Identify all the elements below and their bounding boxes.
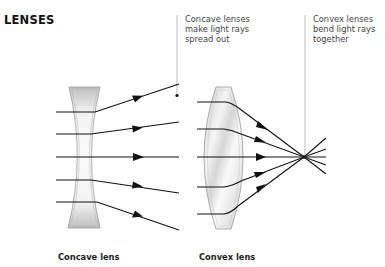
concave-arrowheads (132, 96, 144, 218)
convex-lens (204, 87, 243, 229)
convex-arrowheads (254, 121, 268, 193)
concave-callout-dot (175, 94, 178, 97)
concave-lens-caption: Concave lens (58, 252, 119, 262)
focal-point (302, 155, 306, 159)
convex-lens-caption: Convex lens (199, 252, 255, 262)
lens-diagram (0, 0, 385, 267)
